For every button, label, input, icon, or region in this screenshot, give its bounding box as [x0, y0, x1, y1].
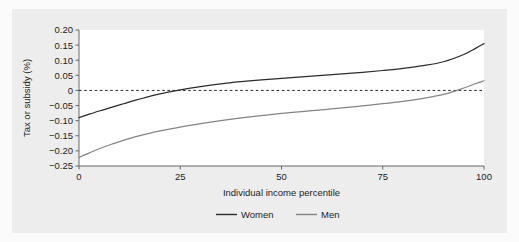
- chart-plot: 0.200.150.100.050−0.05−0.10−0.15−0.20−0.…: [0, 0, 519, 242]
- y-tick-label: −0.10: [49, 115, 73, 126]
- x-axis-ticks: 0255075100: [76, 166, 492, 182]
- x-tick-label: 25: [175, 171, 186, 182]
- legend-label-women: Women: [241, 209, 274, 220]
- chart-legend: Women Men: [216, 209, 339, 220]
- y-tick-label: −0.05: [49, 100, 73, 111]
- y-tick-label: 0.20: [55, 24, 74, 35]
- y-tick-label: 0: [68, 85, 73, 96]
- y-tick-label: 0.05: [55, 70, 74, 81]
- x-tick-label: 75: [377, 171, 388, 182]
- y-axis-ticks: 0.200.150.100.050−0.05−0.10−0.15−0.20−0.…: [49, 24, 79, 171]
- y-tick-label: 0.10: [55, 55, 74, 66]
- y-tick-label: −0.15: [49, 130, 73, 141]
- y-tick-label: −0.20: [49, 145, 73, 156]
- legend-label-men: Men: [321, 209, 339, 220]
- x-axis-title: Individual income percentile: [223, 187, 340, 198]
- x-tick-label: 0: [76, 171, 81, 182]
- x-tick-label: 100: [476, 171, 492, 182]
- y-tick-label: 0.15: [55, 40, 74, 51]
- y-axis-title: Tax or subsidy (%): [21, 59, 32, 137]
- chart-figure: 0.200.150.100.050−0.05−0.10−0.15−0.20−0.…: [0, 0, 519, 242]
- x-tick-label: 50: [276, 171, 287, 182]
- y-tick-label: −0.25: [49, 160, 73, 171]
